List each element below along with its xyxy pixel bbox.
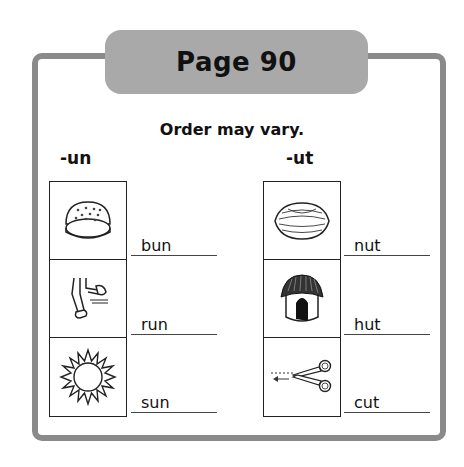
answer-line: sun (131, 393, 217, 413)
picture-cell (50, 182, 126, 260)
answer-line: hut (344, 315, 430, 335)
running-legs-icon (64, 274, 112, 324)
instruction-text: Order may vary. (0, 120, 464, 139)
answer-line: bun (131, 236, 217, 256)
scissors-cut-icon (269, 359, 335, 395)
picture-cell (50, 338, 126, 416)
sun-icon (59, 348, 117, 406)
picture-cell (264, 260, 340, 338)
answer-line: cut (344, 393, 430, 413)
answer-line: run (131, 315, 217, 335)
answer-line: nut (344, 236, 430, 256)
picture-cell (264, 182, 340, 260)
page-title-tab: Page 90 (105, 30, 368, 94)
column-heading-ut: -ut (286, 148, 313, 168)
picture-cell (50, 260, 126, 338)
hut-icon (278, 271, 326, 327)
column-heading-un: -un (60, 148, 91, 168)
picture-grid-un (49, 181, 127, 417)
bun-icon (62, 198, 114, 244)
nut-icon (272, 199, 332, 243)
picture-cell (264, 338, 340, 416)
picture-grid-ut (263, 181, 341, 417)
page-title: Page 90 (176, 47, 297, 77)
